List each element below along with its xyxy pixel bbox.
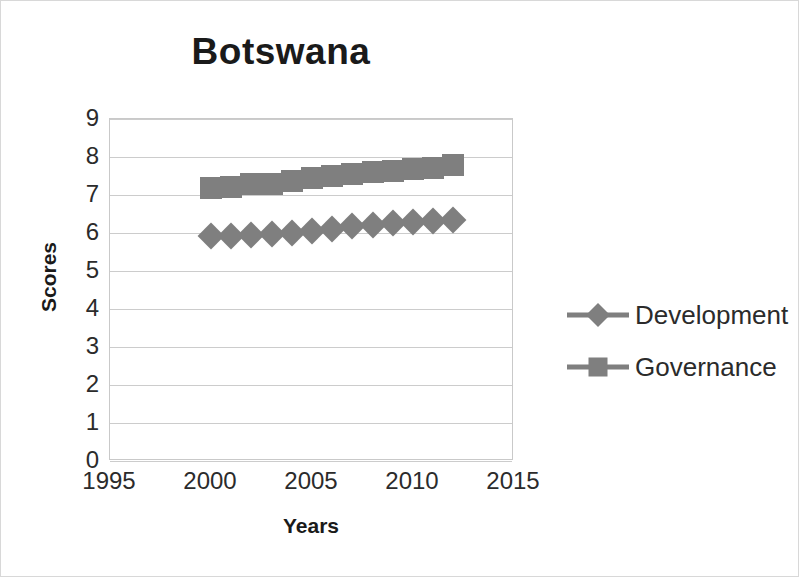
y-tick-label: 5: [49, 258, 99, 282]
data-point-marker: [422, 157, 444, 179]
data-point-marker: [442, 154, 464, 176]
plot-area: [109, 118, 513, 460]
data-point-marker: [240, 173, 262, 195]
legend-label: Governance: [635, 352, 777, 383]
chart-legend: DevelopmentGovernance: [567, 289, 793, 393]
y-tick-label: 6: [49, 220, 99, 244]
y-tick-label: 7: [49, 182, 99, 206]
gridline: [110, 347, 512, 348]
gridline: [110, 423, 512, 424]
gridline: [110, 119, 512, 120]
data-point-marker: [362, 161, 384, 183]
data-point-marker: [261, 173, 283, 195]
data-point-marker: [220, 176, 242, 198]
y-tick-label: 1: [49, 410, 99, 434]
legend-item[interactable]: Governance: [567, 341, 793, 393]
gridline: [110, 271, 512, 272]
gridline: [110, 195, 512, 196]
gridline: [110, 461, 512, 462]
data-point-marker: [382, 160, 404, 182]
y-tick-label: 4: [49, 296, 99, 320]
gridline: [110, 309, 512, 310]
y-tick-label: 3: [49, 334, 99, 358]
data-point-marker: [341, 163, 363, 185]
diamond-marker-icon: [586, 303, 610, 327]
y-axis-tick-labels: 0123456789: [49, 118, 99, 460]
data-point-marker: [402, 158, 424, 180]
chart-title: Botswana: [1, 31, 561, 73]
chart-figure: Botswana Scores 0123456789 1995200020052…: [0, 0, 799, 577]
y-tick-label: 9: [49, 106, 99, 130]
y-tick-label: 8: [49, 144, 99, 168]
data-point-marker: [440, 206, 467, 233]
gridline: [110, 385, 512, 386]
legend-label: Development: [635, 300, 788, 331]
legend-item[interactable]: Development: [567, 289, 793, 341]
data-point-marker: [301, 167, 323, 189]
y-tick-label: 2: [49, 372, 99, 396]
data-point-marker: [321, 165, 343, 187]
x-tick-label: 2015: [453, 469, 573, 493]
data-point-marker: [200, 177, 222, 199]
data-point-marker: [281, 170, 303, 192]
x-axis-tick-labels: 19952000200520102015: [1, 469, 799, 503]
square-marker-icon: [589, 358, 608, 377]
x-axis-title: Years: [109, 514, 513, 538]
